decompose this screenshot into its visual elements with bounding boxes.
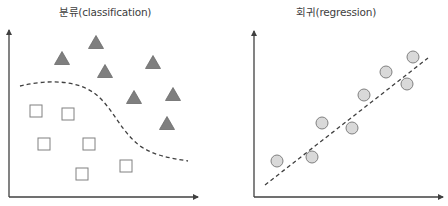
triangle-marker xyxy=(89,36,104,49)
circle-data-point xyxy=(346,122,358,134)
circle-data-point xyxy=(407,51,419,63)
square-marker xyxy=(120,160,132,172)
circle-data-point xyxy=(358,89,370,101)
triangle-marker xyxy=(160,117,175,130)
regression-data-points xyxy=(271,51,419,167)
triangle-marker xyxy=(55,52,70,65)
square-marker xyxy=(83,138,95,150)
class-b-squares xyxy=(30,105,132,180)
square-marker xyxy=(76,168,88,180)
square-marker xyxy=(30,105,42,117)
regression-panel xyxy=(254,31,443,197)
square-marker xyxy=(62,108,74,120)
circle-data-point xyxy=(401,78,413,90)
classification-panel xyxy=(9,30,198,197)
square-marker xyxy=(38,138,50,150)
circle-data-point xyxy=(316,117,328,129)
circle-data-point xyxy=(380,66,392,78)
triangle-marker xyxy=(98,65,113,78)
triangle-marker xyxy=(146,56,161,69)
triangle-marker xyxy=(127,91,142,104)
triangle-marker xyxy=(166,88,181,101)
circle-data-point xyxy=(306,151,318,163)
circle-data-point xyxy=(271,155,283,167)
regression-fit-line xyxy=(265,58,428,185)
classification-regression-diagram xyxy=(0,0,448,206)
